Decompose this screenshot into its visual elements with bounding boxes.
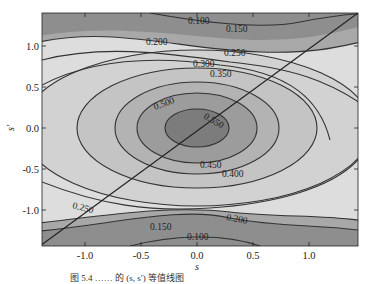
x-tick-label: 1.0 <box>302 250 315 261</box>
y-axis-label: s' <box>5 124 16 131</box>
clabel: 0.450 <box>200 160 222 170</box>
clabel: 0.150 <box>150 222 172 232</box>
y-tick-label: 0.0 <box>26 123 39 134</box>
clabel: 0.150 <box>226 24 248 34</box>
plot-area <box>22 13 372 246</box>
x-axis-label: s <box>195 261 199 272</box>
y-tick-label: 0.5 <box>26 82 39 93</box>
x-tick-label: 0.0 <box>190 250 203 261</box>
y-tick-label: -1.0 <box>22 205 39 216</box>
clabel: 0.350 <box>210 69 232 79</box>
figure-caption: 图 5.4 …… 的 (s, s′) 等值线图 <box>70 271 184 284</box>
clabel: 0.200 <box>146 37 168 47</box>
y-tick-label: -0.5 <box>22 164 39 175</box>
clabel: 0.100 <box>188 16 210 26</box>
clabel: 0.100 <box>187 232 209 242</box>
y-tick-label: 1.0 <box>26 41 39 52</box>
clabel: 0.400 <box>222 169 244 179</box>
clabel: 0.250 <box>224 48 246 58</box>
clabel: 0.300 <box>193 59 215 69</box>
x-tick-label: 0.5 <box>246 250 259 261</box>
x-tick-label: -0.5 <box>133 250 150 261</box>
x-tick-label: -1.0 <box>77 250 94 261</box>
